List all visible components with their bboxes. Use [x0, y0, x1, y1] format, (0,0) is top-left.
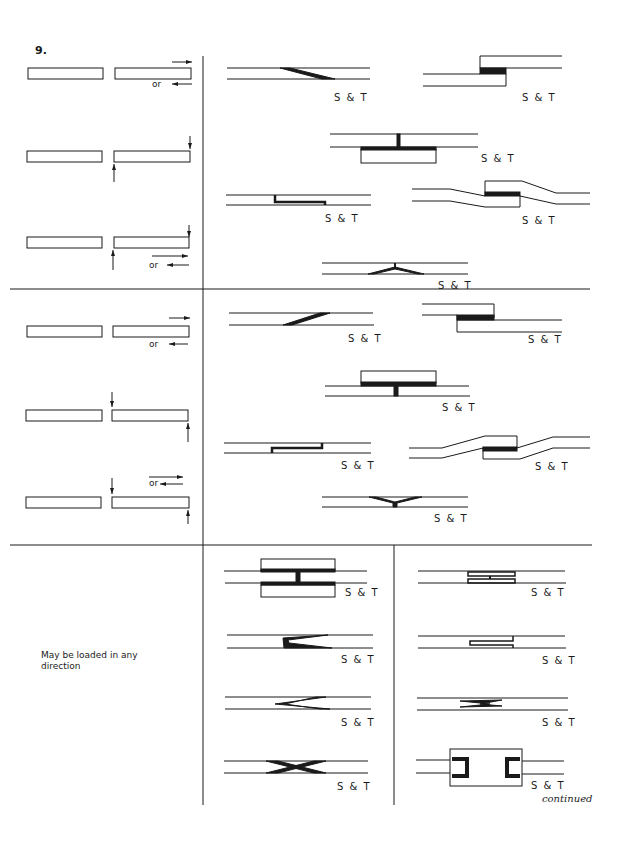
joint-offset-lap-2: [224, 443, 371, 453]
diagram-page: 9.: [0, 0, 623, 844]
joint-t-strap-2: [325, 371, 470, 396]
joint-label: S & T: [542, 655, 576, 666]
arrowheads: [110, 60, 192, 516]
joint-scarf-1: [227, 68, 370, 79]
joint-label: S & T: [481, 153, 515, 164]
joint-joggle-1: [412, 181, 590, 207]
loading-note: May be loaded in any direction: [41, 650, 151, 672]
joint-label: S & T: [341, 654, 375, 665]
continued-label: continued: [542, 793, 592, 804]
joint-label: S & T: [528, 334, 562, 345]
joint-v-tongue: [227, 635, 373, 648]
joint-label: S & T: [337, 781, 371, 792]
load-case-1a: [28, 62, 192, 84]
load-case-2b: [26, 392, 188, 442]
joint-diagram-art: [0, 0, 623, 844]
joint-tongue-groove: [418, 636, 566, 648]
joint-label: S & T: [334, 92, 368, 103]
joint-label: S & T: [341, 717, 375, 728]
or-label: or: [149, 478, 158, 488]
joint-label: S & T: [522, 215, 556, 226]
joint-t-strap-1: [330, 134, 478, 163]
joint-label: S & T: [345, 587, 379, 598]
joint-multiple-v: [417, 698, 568, 710]
joint-stepped-lap-2: [422, 304, 562, 332]
joint-x-scarf: [224, 761, 368, 773]
or-label: or: [152, 79, 161, 89]
load-case-1b: [27, 136, 190, 182]
load-case-2a: [27, 318, 190, 344]
joint-label: S & T: [438, 280, 472, 291]
joint-label: S & T: [535, 461, 569, 472]
or-label: or: [149, 260, 158, 270]
joint-label: S & T: [442, 402, 476, 413]
joint-v-scarf: [225, 697, 371, 709]
joint-stepped-lap-1: [423, 56, 562, 86]
joint-double-tongue-h: [418, 571, 566, 583]
joint-label: S & T: [434, 513, 468, 524]
joint-offset-lap-1: [226, 195, 371, 205]
joint-label: S & T: [348, 333, 382, 344]
joint-scarf-2: [229, 313, 374, 325]
joint-joggle-2: [409, 436, 590, 459]
joint-label: S & T: [341, 460, 375, 471]
or-label: or: [149, 339, 158, 349]
joint-label: S & T: [522, 92, 556, 103]
joint-label: S & T: [542, 717, 576, 728]
load-case-1c: [27, 225, 189, 270]
joint-y-tee-1: [322, 263, 468, 274]
joint-label: S & T: [325, 213, 359, 224]
joint-label: S & T: [531, 780, 565, 791]
joint-label: S & T: [531, 587, 565, 598]
joint-y-tee-2: [322, 497, 468, 507]
